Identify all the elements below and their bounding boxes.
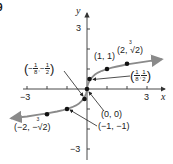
y-axis-label: y bbox=[76, 6, 80, 16]
x-tick-label-neg3: −3 bbox=[20, 93, 30, 102]
point-1 bbox=[105, 67, 110, 72]
cube-root-graph: 9 y x 3 −3 −3 3 (1, 1) (2, 3√2) (18,12) … bbox=[0, 0, 173, 164]
label-point-neg2-neg-cbrt2: (−2, −3√2) bbox=[14, 123, 50, 132]
label-point-eighth-half: (18,12) bbox=[130, 69, 151, 82]
x-axis-label: x bbox=[161, 92, 165, 102]
leader-neg1 bbox=[70, 110, 97, 126]
label-point-2-cbrt2: (2, 3√2) bbox=[117, 46, 143, 55]
x-tick-label-3: 3 bbox=[144, 93, 149, 102]
curve-left-arrow bbox=[11, 118, 16, 119]
point-origin bbox=[85, 87, 90, 92]
label-point-neg1-neg1: (−1, −1) bbox=[98, 122, 130, 131]
leader-neg-eighth bbox=[64, 71, 83, 96]
label-point-neg-eighth-neg-half: (−18,−12) bbox=[24, 62, 54, 75]
point-neg-eighth bbox=[82, 97, 87, 102]
point-neg2 bbox=[45, 112, 50, 117]
point-neg1 bbox=[65, 107, 70, 112]
leader-pos-eighth bbox=[93, 76, 130, 80]
label-point-origin: (0, 0) bbox=[101, 110, 122, 119]
y-tick-label-3: 3 bbox=[76, 24, 81, 33]
y-tick-label-neg3: −3 bbox=[70, 145, 80, 154]
point-2 bbox=[125, 62, 130, 67]
exercise-number: 9 bbox=[0, 2, 3, 13]
label-point-1-1: (1, 1) bbox=[94, 52, 115, 61]
point-pos-eighth bbox=[87, 77, 92, 82]
